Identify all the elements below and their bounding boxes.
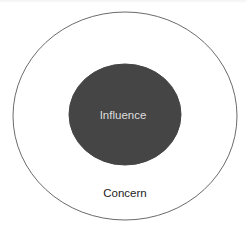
influence-label: Influence [100, 109, 147, 121]
concern-label: Concern [103, 187, 146, 199]
circle-of-concern-diagram: Influence Concern [0, 0, 246, 230]
